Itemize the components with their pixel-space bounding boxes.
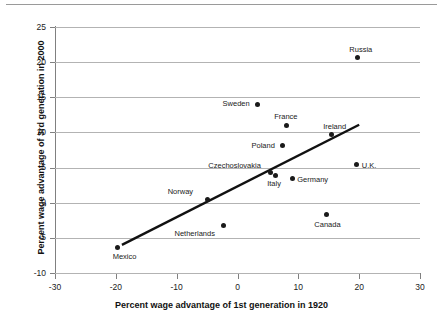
data-point — [329, 132, 334, 137]
data-point — [290, 176, 295, 181]
gridline-y — [55, 27, 420, 28]
y-tick-mark — [50, 203, 55, 204]
data-point-label: Germany — [297, 176, 328, 184]
data-point — [273, 173, 278, 178]
data-point-label: Norway — [168, 188, 193, 196]
data-point-label: Mexico — [113, 253, 137, 261]
data-point-label: Canada — [314, 221, 340, 229]
data-point-label: Netherlands — [175, 230, 215, 238]
x-tick-label: 10 — [283, 283, 313, 292]
x-tick-mark — [116, 274, 117, 279]
data-point-label: Czechoslovakia — [208, 162, 261, 170]
x-tick-label: -30 — [40, 283, 70, 292]
x-axis-title: Percent wage advantage of 1st generation… — [0, 300, 443, 310]
data-point — [255, 102, 260, 107]
data-point-label: France — [274, 113, 297, 121]
data-point — [280, 143, 285, 148]
data-point — [284, 123, 289, 128]
top-divider-rule — [6, 4, 437, 5]
data-point-label: Poland — [252, 142, 275, 150]
x-tick-label: -10 — [162, 283, 192, 292]
x-tick-label: 20 — [344, 283, 374, 292]
data-point — [205, 197, 210, 202]
data-point-label: Sweden — [223, 100, 250, 108]
x-tick-label: 30 — [405, 283, 435, 292]
y-axis-title: Percent wage advantage of 3rd generation… — [36, 23, 47, 273]
data-point-label: Ireland — [323, 123, 346, 131]
y-tick-mark — [50, 62, 55, 63]
x-tick-mark — [55, 274, 56, 279]
y-axis-title-text: Percent wage advantage of 3rd generation… — [36, 23, 47, 273]
data-point-label: Italy — [267, 180, 281, 188]
gridline-y — [55, 132, 420, 133]
x-tick-mark — [359, 274, 360, 279]
data-point — [324, 212, 329, 217]
scatter-chart-figure: -10-50510152025 -30-20-100102030 MexicoN… — [0, 0, 443, 326]
data-point — [221, 223, 226, 228]
gridline-y — [55, 97, 420, 98]
y-tick-mark — [50, 168, 55, 169]
data-point — [115, 245, 120, 250]
y-tick-mark — [50, 97, 55, 98]
data-point — [354, 162, 359, 167]
y-tick-mark — [50, 238, 55, 239]
x-tick-mark — [420, 274, 421, 279]
y-tick-mark — [50, 132, 55, 133]
data-point-label: U.K. — [362, 162, 377, 170]
data-point — [355, 55, 360, 60]
gridline-y — [55, 62, 420, 63]
x-tick-mark — [177, 274, 178, 279]
x-tick-mark — [238, 274, 239, 279]
data-point-label: Russia — [349, 46, 372, 54]
y-axis-line — [55, 26, 56, 274]
y-tick-mark — [50, 27, 55, 28]
gridline-y — [55, 238, 420, 239]
gridline-y — [55, 203, 420, 204]
x-tick-label: -20 — [101, 283, 131, 292]
x-tick-mark — [298, 274, 299, 279]
x-tick-label: 0 — [223, 283, 253, 292]
